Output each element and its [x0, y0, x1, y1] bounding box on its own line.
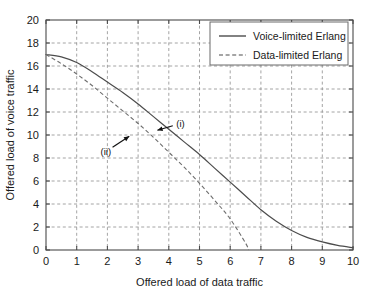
- y-tick-label: 8: [33, 152, 39, 164]
- y-tick-label: 16: [27, 60, 39, 72]
- x-tick-label: 6: [227, 255, 233, 267]
- chart-legend: Voice-limited ErlangData-limited Erlang: [210, 22, 348, 65]
- chart-figure: 012345678910 02468101214161820 Offered l…: [0, 0, 370, 293]
- annotations-group: (i)(ii): [101, 118, 185, 157]
- x-tick-label: 4: [166, 255, 172, 267]
- y-tick-label: 20: [27, 14, 39, 26]
- y-tick-label: 0: [33, 244, 39, 256]
- y-tick-label: 10: [27, 129, 39, 141]
- x-tick-label: 7: [258, 255, 264, 267]
- y-axis-title: Offered load of voice traffic: [4, 69, 16, 201]
- x-tick-label: 9: [319, 255, 325, 267]
- y-tick-label: 2: [33, 221, 39, 233]
- x-axis-tick-labels: 012345678910: [43, 255, 359, 267]
- x-tick-label: 1: [74, 255, 80, 267]
- y-tick-label: 14: [27, 83, 39, 95]
- x-tick-label: 0: [43, 255, 49, 267]
- erlang-tradeoff-chart: 012345678910 02468101214161820 Offered l…: [0, 0, 370, 293]
- annotation-arrow-head: [124, 136, 130, 141]
- legend-label-data-limited: Data-limited Erlang: [253, 49, 342, 61]
- annotation-label-ii: (ii): [101, 146, 112, 157]
- y-tick-label: 12: [27, 106, 39, 118]
- y-tick-label: 4: [33, 198, 39, 210]
- x-axis-title: Offered load of data traffic: [136, 276, 263, 288]
- x-tick-label: 3: [135, 255, 141, 267]
- legend-label-voice-limited: Voice-limited Erlang: [253, 30, 346, 42]
- x-tick-label: 2: [104, 255, 110, 267]
- y-tick-label: 6: [33, 175, 39, 187]
- x-tick-label: 10: [347, 255, 359, 267]
- annotation-label-i: (i): [176, 118, 184, 129]
- y-tick-label: 18: [27, 37, 39, 49]
- x-tick-label: 8: [289, 255, 295, 267]
- y-axis-tick-labels: 02468101214161820: [27, 14, 39, 256]
- x-tick-label: 5: [196, 255, 202, 267]
